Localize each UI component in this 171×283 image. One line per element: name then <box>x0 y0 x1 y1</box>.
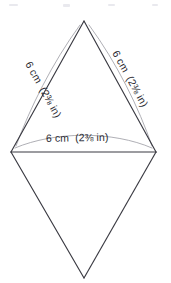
label-horizontal-diagonal: 6 cm (2⅜ in) <box>46 131 109 144</box>
edge-bottom-left <box>11 152 84 278</box>
top-edge-artifacts <box>9 4 158 7</box>
rhombus-figure: 6 cm (2⅜ in) 6 cm (2⅜ in) 6 cm (2⅜ in) <box>0 0 171 283</box>
label-right-side: 6 cm (2⅜ in) <box>110 48 151 109</box>
geometry-diagram: 6 cm (2⅜ in) 6 cm (2⅜ in) 6 cm (2⅜ in) <box>0 0 171 283</box>
edge-bottom-right <box>84 152 156 278</box>
